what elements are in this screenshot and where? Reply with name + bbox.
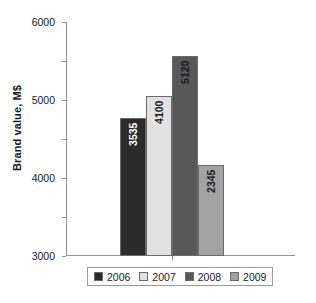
bar: 4100	[146, 96, 172, 256]
bar: 5120	[172, 56, 198, 256]
y-tick-mark: 0	[62, 256, 66, 257]
legend-swatch-icon	[185, 272, 194, 281]
x-tick-mark	[172, 256, 173, 260]
bar-chart: Brand value, M$ 600050004000300020001000…	[0, 0, 316, 303]
bar: 2345	[198, 165, 224, 256]
legend-swatch-icon	[94, 272, 103, 281]
legend-item-label: 2006	[107, 271, 130, 283]
bar-series-group: 3535410051202345	[66, 22, 295, 256]
legend-item[interactable]: 2007	[139, 271, 175, 283]
y-tick-label: 4000	[32, 172, 55, 184]
legend-item[interactable]: 2009	[230, 271, 266, 283]
y-axis-title-label: Brand value, M$	[11, 85, 23, 171]
plot-area: 6000500040003000200010000 35354100512023…	[66, 22, 295, 256]
bar-value-label: 2345	[206, 169, 217, 192]
y-tick-label: 5000	[32, 94, 55, 106]
legend-item-label: 2008	[198, 271, 221, 283]
bar-value-label: 5120	[180, 61, 191, 84]
legend-item[interactable]: 2006	[94, 271, 130, 283]
chart-legend: 2006200720082009	[87, 267, 273, 286]
bar-value-label: 3535	[128, 123, 139, 146]
y-tick-label: 3000	[32, 250, 55, 262]
legend-swatch-icon	[230, 272, 239, 281]
legend-item-label: 2007	[152, 271, 175, 283]
legend-swatch-icon	[139, 272, 148, 281]
legend-item-label: 2009	[243, 271, 266, 283]
bar-value-label: 4100	[154, 101, 165, 124]
legend-item[interactable]: 2008	[185, 271, 221, 283]
y-axis-title: Brand value, M$	[4, 0, 30, 256]
bar: 3535	[120, 118, 146, 256]
y-tick-label: 6000	[32, 16, 55, 28]
